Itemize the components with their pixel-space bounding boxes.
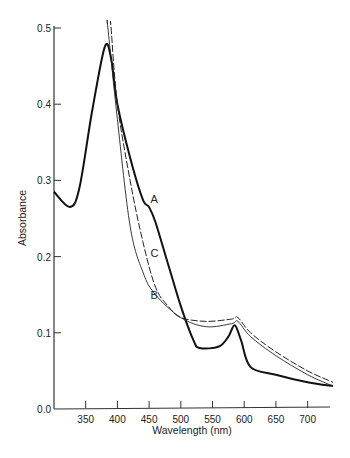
y-axis-title: Absorbance bbox=[16, 190, 28, 246]
x-tick-label-350: 350 bbox=[77, 414, 94, 425]
x-tick-label-700: 700 bbox=[299, 414, 316, 425]
series-group bbox=[54, 20, 333, 386]
y-tick-label-0.5: 0.5 bbox=[37, 23, 51, 34]
x-axis-title: Wavelength (nm) bbox=[152, 424, 232, 436]
series-line-A bbox=[54, 44, 333, 386]
y-tick-label-0.2: 0.2 bbox=[37, 252, 51, 263]
y-tick-label-0: 0.0 bbox=[37, 404, 51, 415]
x-tick-label-650: 650 bbox=[268, 414, 285, 425]
axes bbox=[54, 26, 330, 409]
y-tick-label-0.4: 0.4 bbox=[37, 99, 51, 110]
curve-label-B: B bbox=[150, 289, 157, 301]
series-line-B bbox=[107, 20, 333, 386]
y-tick-label-0.1: 0.1 bbox=[37, 328, 51, 339]
y-tick-label-0.3: 0.3 bbox=[37, 175, 51, 186]
x-axis-line bbox=[54, 407, 330, 409]
x-tick-label-600: 600 bbox=[236, 414, 253, 425]
ticks: 3504004505005506006507000.00.10.20.30.40… bbox=[37, 23, 316, 425]
x-tick-label-400: 400 bbox=[109, 414, 126, 425]
curve-label-A: A bbox=[150, 193, 158, 205]
curve-label-C: C bbox=[150, 247, 158, 259]
absorbance-chart: 3504004505005506006507000.00.10.20.30.40… bbox=[0, 0, 350, 458]
